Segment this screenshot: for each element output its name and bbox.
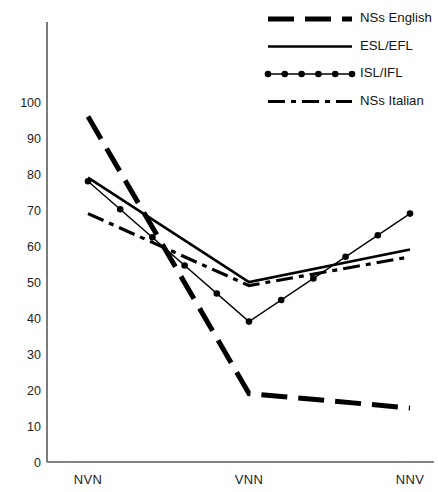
y-tick-label: 50 [27,276,41,290]
legend-marker [349,71,356,78]
series-marker [375,232,382,239]
y-tick-label: 30 [27,348,41,362]
series-marker [407,210,414,217]
x-tick-label: NNV [396,472,425,487]
x-axis-tick-labels: NVNVNNNNV [74,472,425,487]
legend-marker [315,71,322,78]
x-tick-label: NVN [74,472,103,487]
chart-canvas: 0102030405060708090100 NVNVNNNNV NSs Eng… [0,0,438,492]
series-marker [278,297,285,304]
y-tick-label: 90 [27,132,41,146]
y-tick-label: 10 [27,420,41,434]
line-chart: 0102030405060708090100 NVNVNNNNV NSs Eng… [0,0,438,492]
legend-marker [282,71,289,78]
chart-legend: NSs EnglishESL/EFLISL/IFLNSs Italian [265,10,432,108]
y-tick-label: 40 [27,312,41,326]
legend-marker [332,71,339,78]
series-marker [342,253,349,260]
y-tick-label: 80 [27,168,41,182]
series-marker [117,206,124,213]
axes-group [47,22,434,462]
series-marker [149,234,156,241]
legend-label: NSs English [360,10,432,25]
y-tick-label: 20 [27,384,41,398]
y-tick-label: 100 [20,96,41,110]
y-tick-label: 70 [27,204,41,218]
series-group [85,116,414,408]
y-tick-label: 0 [34,456,41,470]
y-tick-label: 60 [27,240,41,254]
x-tick-label: VNN [235,472,264,487]
series-marker [181,262,188,269]
legend-label: NSs Italian [360,93,424,108]
legend-marker [265,71,272,78]
series-marker [214,290,221,297]
series-marker [85,178,92,185]
series-line-esl-efl [88,178,410,282]
series-marker [246,318,253,325]
series-line-nss-italian [88,214,410,286]
legend-marker [298,71,305,78]
legend-label: ESL/EFL [360,38,413,53]
series-line-nss-english [88,116,410,408]
y-axis-tick-labels: 0102030405060708090100 [20,96,41,470]
legend-label: ISL/IFL [360,65,403,80]
